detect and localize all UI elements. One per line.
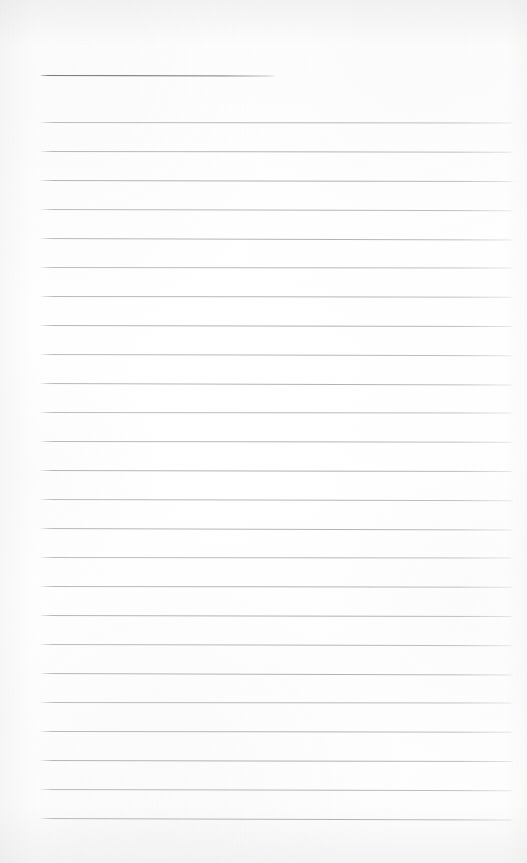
paper-background — [0, 0, 527, 863]
notepad-page — [0, 0, 527, 863]
